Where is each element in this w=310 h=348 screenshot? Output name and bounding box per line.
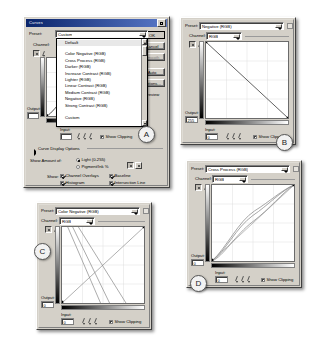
preset-label-a: Preset:: [29, 31, 42, 37]
curve-point-tool-icon[interactable]: [45, 226, 52, 233]
preset-combo-a[interactable]: Custom: [55, 30, 148, 38]
eyedropper-tools-a: [77, 133, 93, 139]
input-value-c[interactable]: 0: [61, 318, 74, 325]
close-icon[interactable]: [157, 19, 166, 27]
output-value-d[interactable]: 0: [191, 259, 204, 266]
curves-dialog-d: Preset: Cross Process (RGB) Channel: RGB: [186, 160, 302, 288]
channel-combo-d[interactable]: RGB: [212, 175, 248, 183]
black-point-eyedropper-icon[interactable]: [77, 133, 81, 139]
white-point-eyedropper-icon[interactable]: [94, 318, 98, 324]
output-value-a[interactable]: [27, 112, 39, 119]
curve-graph-c: [55, 226, 145, 310]
preset-value-b: Negative (RGB): [200, 24, 232, 29]
eyedropper-tools-b: [226, 133, 242, 139]
callout-b: B: [276, 134, 293, 151]
black-point-eyedropper-icon[interactable]: [82, 318, 86, 324]
curve-graph-b: [199, 41, 289, 125]
amount-light-radio[interactable]: Light (0-255): [76, 157, 105, 163]
show-baseline-checkbox[interactable]: Baseline: [109, 173, 131, 179]
amount-pigment-radio[interactable]: Pigment/Ink %: [76, 164, 109, 170]
output-value-c[interactable]: 0: [41, 301, 54, 308]
input-value-d[interactable]: 0: [215, 276, 228, 283]
input-gradient-bar-c: [61, 305, 145, 310]
preset-dropdown-list[interactable]: Default Color Negative (RGB) Cross Proce…: [56, 38, 148, 127]
grid-fine-icon[interactable]: [127, 162, 134, 169]
curve-point-tool-icon[interactable]: [33, 50, 40, 57]
channel-combo-b[interactable]: RGB: [206, 32, 242, 40]
checkbox-box: [60, 174, 64, 178]
show-amount-label: Show Amount of:: [30, 158, 62, 164]
amount-light-label: Light (0-255): [82, 157, 106, 163]
input-value-a[interactable]: [60, 133, 72, 140]
input-value-b[interactable]: 0: [205, 133, 218, 140]
chevron-down-icon[interactable]: [233, 34, 240, 38]
white-point-eyedropper-icon[interactable]: [89, 133, 93, 139]
scrollbar-thumb[interactable]: [142, 46, 147, 56]
input-gradient-bar-b: [205, 120, 289, 125]
pencil-tool-icon[interactable]: [42, 51, 46, 57]
chevron-down-icon[interactable]: [275, 24, 282, 28]
output-gradient-bar-a: [40, 57, 45, 117]
channel-overlays-label: Channel Overlays: [66, 173, 99, 179]
channel-divider-c: [98, 221, 145, 222]
white-point-eyedropper-icon[interactable]: [238, 133, 242, 139]
dropdown-scrollbar[interactable]: [141, 39, 147, 126]
output-gradient-bar-c: [55, 226, 60, 304]
show-label: Show:: [47, 174, 59, 180]
show-histogram-checkbox[interactable]: Histogram: [60, 180, 85, 186]
titlebar-a[interactable]: Curves: [26, 19, 167, 27]
chevron-down-icon[interactable]: [281, 167, 288, 171]
eyedropper-tools-d: [235, 276, 251, 282]
channel-value-b: RGB: [207, 34, 218, 39]
gray-point-eyedropper-icon[interactable]: [83, 133, 87, 139]
curve-display-options-header[interactable]: Curve Display Options: [38, 146, 80, 152]
output-gradient-bar-d: [205, 184, 210, 262]
checkbox-box: [261, 278, 265, 282]
show-clipping-checkbox-a[interactable]: Show Clipping: [100, 134, 132, 140]
channel-combo-c[interactable]: RGB: [59, 217, 95, 225]
white-point-eyedropper-icon[interactable]: [247, 276, 251, 282]
preset-options-menu-icon[interactable]: [287, 23, 293, 29]
preset-combo-c[interactable]: Color Negative (RGB): [55, 207, 140, 215]
chevron-down-icon[interactable]: [86, 219, 93, 223]
preset-combo-d[interactable]: Cross Process (RGB): [205, 165, 290, 173]
scroll-up-icon[interactable]: [142, 39, 147, 45]
show-channel-overlays-checkbox[interactable]: Channel Overlays: [60, 173, 99, 179]
channel-label-a: Channel:: [33, 42, 50, 48]
channel-label-c: Channel:: [41, 218, 58, 224]
preset-options-menu-icon[interactable]: [293, 166, 299, 172]
output-gradient-bar-b: [199, 41, 204, 119]
show-intersection-line-checkbox[interactable]: Intersection Line: [109, 180, 145, 186]
show-clipping-label: Show Clipping: [106, 134, 133, 140]
channel-value-c: RGB: [60, 219, 71, 224]
radio-dot: [76, 165, 80, 169]
preset-options-menu-icon[interactable]: [143, 208, 149, 214]
chevron-down-icon[interactable]: [131, 209, 138, 213]
output-value-b[interactable]: 255: [185, 116, 198, 123]
curve-grid-b[interactable]: [205, 41, 289, 119]
callout-a: A: [138, 126, 155, 143]
gray-point-eyedropper-icon[interactable]: [232, 133, 236, 139]
grid-coarse-icon[interactable]: [135, 162, 142, 169]
gray-point-eyedropper-icon[interactable]: [88, 318, 92, 324]
black-point-eyedropper-icon[interactable]: [226, 133, 230, 139]
chevron-down-icon[interactable]: [239, 177, 246, 181]
preset-combo-b[interactable]: Negative (RGB): [199, 22, 284, 30]
amount-pigment-label: Pigment/Ink %: [82, 164, 109, 170]
show-clipping-label: Show Clipping: [115, 319, 142, 325]
disclosure-triangle-icon[interactable]: [34, 149, 39, 156]
curve-grid-c[interactable]: [61, 226, 145, 304]
preset-option[interactable]: Custom: [57, 115, 141, 121]
curve-point-tool-icon[interactable]: [189, 41, 196, 48]
curve-grid-d[interactable]: [211, 184, 295, 262]
preset-label-c: Preset:: [41, 208, 54, 214]
intersection-line-label: Intersection Line: [115, 180, 146, 186]
chevron-down-icon[interactable]: [139, 32, 146, 36]
figure-canvas: Curves Preset: Channel:: [0, 0, 310, 348]
show-clipping-checkbox-c[interactable]: Show Clipping: [109, 319, 141, 325]
gray-point-eyedropper-icon[interactable]: [241, 276, 245, 282]
curve-point-tool-icon[interactable]: [195, 184, 202, 191]
show-clipping-checkbox-d[interactable]: Show Clipping: [261, 277, 293, 283]
black-point-eyedropper-icon[interactable]: [235, 276, 239, 282]
channel-divider-d: [251, 179, 295, 180]
